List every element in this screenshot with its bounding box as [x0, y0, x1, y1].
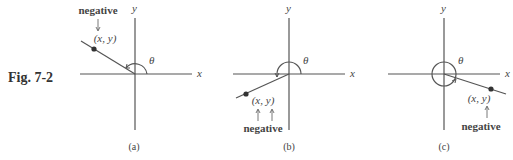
- negative-label-b: negative: [243, 122, 282, 134]
- y-label-c: y: [440, 2, 446, 14]
- caption-c: (c): [438, 141, 449, 153]
- point-dot-b: [243, 91, 248, 96]
- negative-label-c: negative: [461, 120, 500, 132]
- point-label-b: (x, y): [252, 94, 275, 107]
- panel-b: [233, 18, 345, 130]
- figure-diagram: negative (x, y) θ x y (a) (x, y) negativ…: [0, 0, 513, 160]
- theta-label-b: θ: [303, 54, 309, 66]
- theta-label-a: θ: [149, 54, 155, 66]
- panel-c: [388, 18, 506, 130]
- point-label-a: (x, y): [94, 32, 117, 45]
- y-label-b: y: [285, 2, 291, 14]
- caption-a: (a): [128, 141, 139, 153]
- theta-arc: [126, 64, 147, 74]
- x-label-a: x: [196, 67, 202, 79]
- x-label-c: x: [504, 67, 510, 79]
- terminal-side: [444, 74, 506, 94]
- caption-b: (b): [283, 141, 295, 153]
- terminal-side: [81, 41, 135, 74]
- theta-label-c: θ: [458, 54, 464, 66]
- point-label-c: (x, y): [468, 92, 491, 105]
- negative-label-a: negative: [78, 4, 117, 16]
- x-label-b: x: [349, 67, 355, 79]
- point-dot-a: [91, 46, 96, 51]
- y-label-a: y: [131, 2, 137, 14]
- point-dot-c: [488, 86, 493, 91]
